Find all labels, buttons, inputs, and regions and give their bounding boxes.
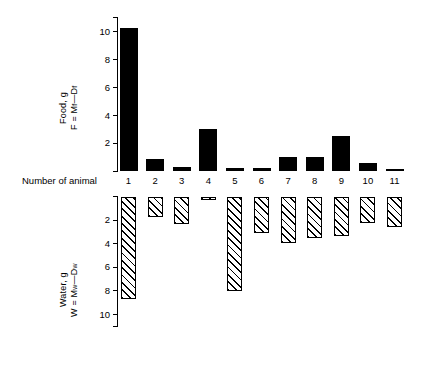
water-bar	[227, 197, 242, 291]
x-axis-title: Number of animal	[22, 175, 97, 186]
food-tick-mark	[113, 143, 118, 144]
food-tick-label: 8	[88, 54, 110, 65]
water-axis-title-line1: Water, g	[58, 273, 68, 308]
food-tick-mark	[113, 87, 118, 88]
water-bar	[148, 197, 163, 217]
water-tick-mark	[113, 314, 118, 315]
water-tick-mark	[113, 243, 118, 244]
x-tick-label: 6	[249, 175, 275, 186]
food-bar	[226, 168, 244, 171]
water-y-axis-cap-bottom	[113, 326, 118, 327]
food-y-axis-cap-bottom	[113, 171, 118, 172]
food-axis-title: Food, g F = Mf—Df	[58, 60, 84, 156]
water-bar	[334, 197, 349, 236]
x-tick-label: 9	[328, 175, 354, 186]
x-tick-label: 5	[222, 175, 248, 186]
x-tick-label: 3	[169, 175, 195, 186]
food-tick-mark	[113, 115, 118, 116]
water-bar	[281, 197, 296, 243]
water-axis-eq-prefix: W = M	[69, 290, 79, 317]
food-y-axis-cap-top	[113, 17, 118, 18]
water-bar	[307, 197, 322, 238]
food-axis-eq-sub1: f	[71, 104, 78, 106]
water-tick-label: 2	[88, 214, 110, 225]
water-bar	[121, 197, 136, 300]
food-bar	[332, 136, 350, 171]
water-tick-label: 10	[88, 309, 110, 320]
water-tick-mark	[113, 267, 118, 268]
x-tick-label: 7	[275, 175, 301, 186]
water-axis-eq-mid: —D	[69, 268, 79, 284]
x-tick-label: 8	[302, 175, 328, 186]
x-tick-label: 11	[382, 175, 408, 186]
water-tick-mark	[113, 220, 118, 221]
food-bar	[253, 168, 271, 171]
food-bar	[146, 159, 164, 171]
x-tick-label: 10	[355, 175, 381, 186]
water-bar	[360, 197, 375, 223]
food-tick-label: 6	[88, 82, 110, 93]
water-tick-mark	[113, 290, 118, 291]
water-tick-label: 4	[88, 238, 110, 249]
water-bar	[254, 197, 269, 234]
water-bar	[174, 197, 189, 224]
x-tick-label: 2	[142, 175, 168, 186]
water-axis-title: Water, g W = Mw—Dw	[58, 240, 84, 340]
x-tick-label: 4	[195, 175, 221, 186]
water-axis-eq-sub2: w	[71, 263, 78, 268]
food-bar	[199, 129, 217, 172]
food-bar	[279, 157, 297, 172]
food-axis-eq-mid: —D	[69, 88, 79, 104]
food-axis-title-line2: F = Mf—Df	[69, 86, 79, 130]
water-bar	[201, 197, 216, 201]
food-tick-label: 10	[88, 26, 110, 37]
food-tick-label: 4	[88, 110, 110, 121]
figure-root: Food, g F = Mf—Df 108642 Number of anima…	[0, 0, 432, 369]
water-tick-label: 8	[88, 285, 110, 296]
food-y-axis	[117, 17, 118, 172]
water-tick-label: 6	[88, 261, 110, 272]
water-axis-title-line2: W = Mw—Dw	[69, 263, 79, 317]
food-bar	[173, 167, 191, 171]
food-bar	[306, 157, 324, 171]
water-bar	[387, 197, 402, 228]
food-tick-label: 2	[88, 137, 110, 148]
water-axis-eq-sub1: w	[71, 284, 78, 289]
food-tick-mark	[113, 59, 118, 60]
x-tick-label: 1	[116, 175, 142, 186]
food-bar	[359, 163, 377, 171]
food-tick-mark	[113, 31, 118, 32]
food-bar	[120, 28, 138, 172]
food-axis-title-line1: Food, g	[58, 92, 68, 124]
water-y-axis	[117, 196, 118, 327]
food-axis-eq-prefix: F = M	[69, 106, 79, 130]
food-axis-eq-sub2: f	[71, 86, 78, 88]
water-y-axis-cap-top	[113, 196, 118, 197]
food-bar	[386, 169, 404, 171]
